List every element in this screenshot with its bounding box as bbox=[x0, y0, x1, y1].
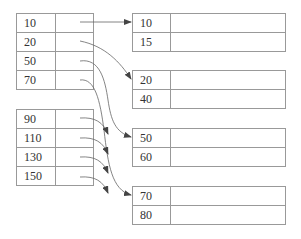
arrow-150-dangling bbox=[80, 177, 108, 193]
arrow-70-to-bucket-4 bbox=[80, 80, 131, 195]
pointer-arrows bbox=[0, 0, 301, 239]
arrow-20-to-bucket-2 bbox=[80, 41, 131, 79]
arrow-130-dangling bbox=[80, 157, 108, 173]
arrow-50-to-bucket-3 bbox=[80, 61, 131, 137]
arrow-110-dangling bbox=[80, 138, 108, 154]
